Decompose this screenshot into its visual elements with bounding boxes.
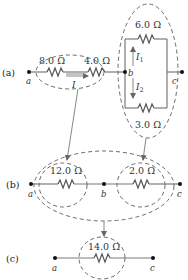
node-label-c: c xyxy=(177,189,182,199)
node-a xyxy=(27,70,31,74)
circuit-diagram: (a) I I1 I2 a b c 8.0 Ω 4.0 xyxy=(0,0,188,280)
panel-a: (a) I I1 I2 a b c 8.0 Ω 4.0 xyxy=(2,4,184,138)
panel-b: (b) a b c 12.0 Ω 2.0 Ω xyxy=(6,151,182,221)
resistor-3-ohm xyxy=(138,104,154,112)
panel-label-b: (b) xyxy=(6,179,20,190)
node-label-b: b xyxy=(101,189,106,199)
resistor-4-ohm xyxy=(88,68,105,76)
resistor-12-ohm xyxy=(58,180,74,188)
panel-c: (c) a c 14.0 Ω xyxy=(6,237,155,279)
node-a xyxy=(29,182,33,186)
node-label-c: c xyxy=(172,76,177,86)
panel-label-c: (c) xyxy=(6,253,19,264)
resistor-6-ohm xyxy=(138,35,154,43)
node-label-c: c xyxy=(150,263,155,273)
node-a xyxy=(53,256,57,260)
label-12-ohm: 12.0 Ω xyxy=(50,165,82,176)
node-b xyxy=(123,70,127,74)
reduction-arrow-series xyxy=(67,89,78,160)
label-4-ohm: 4.0 Ω xyxy=(84,55,110,66)
node-label-a: a xyxy=(52,263,57,273)
label-14-ohm: 14.0 Ω xyxy=(88,241,120,252)
resistor-14-ohm xyxy=(94,254,110,262)
label-3-ohm: 3.0 Ω xyxy=(135,119,161,130)
reduction-arrow-parallel xyxy=(143,138,146,160)
node-c xyxy=(151,256,155,260)
node-b xyxy=(102,182,106,186)
label-6-ohm: 6.0 Ω xyxy=(135,19,161,30)
current-label-i2: I2 xyxy=(135,82,144,94)
label-8-ohm: 8.0 Ω xyxy=(39,55,65,66)
current-label-i1: I1 xyxy=(135,52,144,64)
label-2-ohm: 2.0 Ω xyxy=(129,165,155,176)
node-label-a: a xyxy=(26,76,31,86)
node-label-a: a xyxy=(28,189,33,199)
resistor-8-ohm xyxy=(47,68,63,76)
resistor-2-ohm xyxy=(133,180,149,188)
panel-label-a: (a) xyxy=(2,67,15,78)
node-c xyxy=(180,70,184,74)
node-c xyxy=(178,182,182,186)
node-label-b: b xyxy=(128,68,133,78)
